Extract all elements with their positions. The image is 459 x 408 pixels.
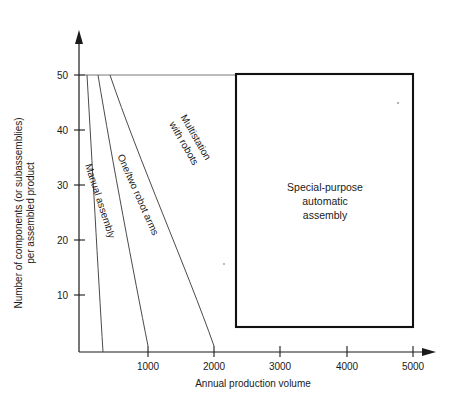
x-tick-label-4000: 4000 <box>336 361 359 372</box>
scan-speck-upper <box>397 102 399 104</box>
y-tick-label-50: 50 <box>57 70 69 81</box>
x-tick-label-5000: 5000 <box>402 361 425 372</box>
multistation-with-robots-label: Multistation with robots <box>167 113 214 167</box>
x-axis-arrow-icon <box>422 348 436 356</box>
special-purpose-label-line-1: Special-purpose <box>287 181 363 193</box>
y-tick-label-10: 10 <box>57 290 69 301</box>
y-tick-label-20: 20 <box>57 235 69 246</box>
y-tick-label-30: 30 <box>57 180 69 191</box>
y-axis-ticks: 50 40 30 20 10 <box>57 70 85 301</box>
manual-assembly-label: Manual assembly <box>83 162 118 239</box>
x-tick-label-2000: 2000 <box>203 361 226 372</box>
scan-speck-lower <box>223 263 225 265</box>
y-tick-label-40: 40 <box>57 125 69 136</box>
figure-container: 50 40 30 20 10 1000 2000 3000 4000 5000 <box>0 0 459 408</box>
special-purpose-label-line-3: assembly <box>303 209 348 221</box>
special-purpose-region-label: Special-purpose automatic assembly <box>287 181 363 221</box>
y-axis-title-line-2: per assembled product <box>25 162 36 264</box>
x-axis-ticks: 1000 2000 3000 4000 5000 <box>137 346 425 372</box>
axes-group <box>75 30 436 356</box>
x-axis-title: Annual production volume <box>195 378 311 389</box>
x-tick-label-3000: 3000 <box>269 361 292 372</box>
y-axis-title-line-1: Number of components (or subassemblies) <box>13 117 24 308</box>
x-tick-label-1000: 1000 <box>137 361 160 372</box>
y-axis-title: Number of components (or subassemblies) … <box>13 117 36 308</box>
one-two-robot-arms-label-text: One/two robot arms <box>115 152 161 237</box>
one-two-robot-arms-label: One/two robot arms <box>115 152 161 237</box>
y-axis-arrow-icon <box>75 30 83 44</box>
manual-assembly-label-text: Manual assembly <box>83 162 118 239</box>
assembly-method-chart: 50 40 30 20 10 1000 2000 3000 4000 5000 <box>0 0 459 408</box>
special-purpose-label-line-2: automatic <box>302 195 348 207</box>
multistation-with-robots-boundary-curve <box>110 75 214 346</box>
